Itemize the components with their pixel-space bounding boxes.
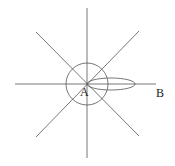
point-b-label: B (156, 86, 164, 100)
point-a-label: A (80, 85, 89, 99)
geometry-diagram: A B (0, 0, 175, 166)
diagram-canvas: A B (0, 0, 175, 166)
